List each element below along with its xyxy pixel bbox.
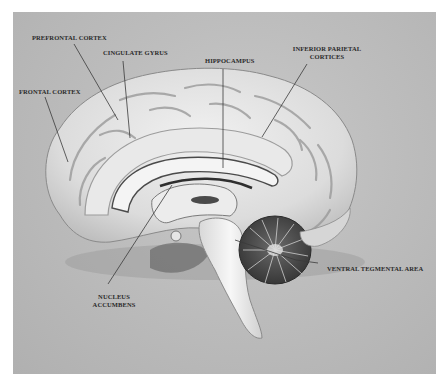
label-prefrontal-cortex: PREFRONTAL CORTEX <box>32 34 107 42</box>
label-ventral-tegmental-area: VENTRAL TEGMENTAL AREA <box>327 265 423 273</box>
label-nucleus-accumbens: NUCLEUS ACCUMBENS <box>79 293 149 309</box>
label-nucleus-accumbens-line1: NUCLEUS <box>79 293 149 301</box>
label-inferior-parietal-cortices: INFERIOR PARIETAL CORTICES <box>267 45 387 61</box>
label-frontal-cortex: FRONTAL CORTEX <box>19 88 81 96</box>
label-hippocampus: HIPPOCAMPUS <box>205 57 255 65</box>
label-inferior-parietal-line1: INFERIOR PARIETAL <box>267 45 387 53</box>
mammillary-body <box>171 231 181 241</box>
cerebellum <box>239 216 311 284</box>
label-nucleus-accumbens-line2: ACCUMBENS <box>79 301 149 309</box>
label-inferior-parietal-line2: CORTICES <box>267 53 387 61</box>
label-cingulate-gyrus: CINGULATE GYRUS <box>103 49 168 57</box>
brain-photo: PREFRONTAL CORTEX CINGULATE GYRUS HIPPOC… <box>13 12 436 374</box>
brain-illustration <box>13 12 436 374</box>
third-ventricle <box>191 196 219 204</box>
